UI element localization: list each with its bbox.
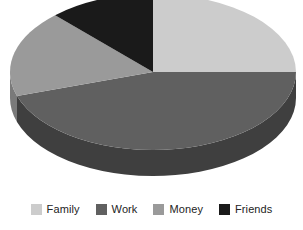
legend-swatch-family	[31, 204, 42, 215]
legend-label-friends: Friends	[235, 203, 272, 215]
legend-item-money[interactable]: Money	[153, 203, 203, 215]
legend-swatch-money	[153, 204, 164, 215]
pie-chart-svg	[0, 0, 303, 186]
pie-chart-figure: Family Work Money Friends	[0, 0, 303, 230]
pie-slice-family	[153, 0, 296, 72]
legend-item-friends[interactable]: Friends	[219, 203, 272, 215]
legend-label-family: Family	[47, 203, 80, 215]
chart-legend: Family Work Money Friends	[0, 196, 303, 222]
legend-label-money: Money	[169, 203, 203, 215]
legend-label-work: Work	[112, 203, 138, 215]
legend-item-work[interactable]: Work	[96, 203, 138, 215]
legend-swatch-work	[96, 204, 107, 215]
pie-chart-plot-area	[0, 0, 303, 186]
legend-swatch-friends	[219, 204, 230, 215]
legend-item-family[interactable]: Family	[31, 203, 80, 215]
